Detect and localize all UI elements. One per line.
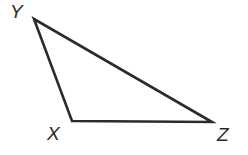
vertex-label-y: Y: [10, 2, 23, 21]
geometry-figure: Y X Z: [0, 0, 248, 155]
vertex-label-z: Z: [217, 125, 229, 144]
vertex-label-x: X: [47, 124, 60, 143]
triangle-shape: [0, 0, 248, 155]
triangle-outline: [34, 19, 212, 122]
